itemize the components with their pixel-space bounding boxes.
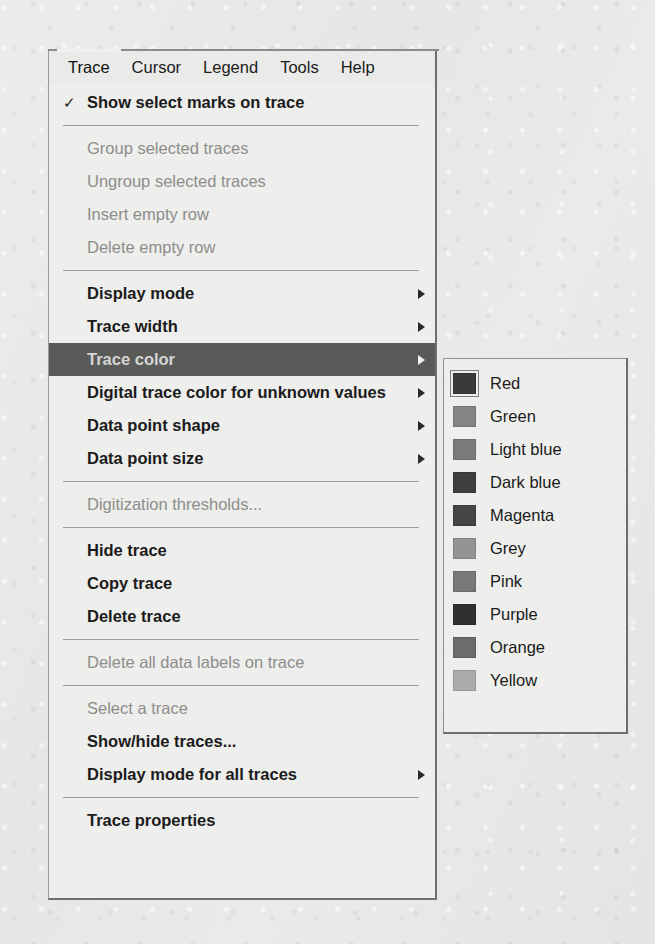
menubar-item-legend[interactable]: Legend — [192, 51, 269, 84]
color-option-grey[interactable]: Grey — [444, 532, 626, 565]
menu-separator — [63, 685, 419, 686]
color-option-label: Light blue — [490, 440, 562, 459]
color-swatch-icon — [453, 637, 476, 658]
menu-item-show-select-marks-on-trace[interactable]: ✓Show select marks on trace — [49, 86, 435, 119]
menu-item-label: Hide trace — [87, 541, 425, 560]
menu-item-delete-trace[interactable]: Delete trace — [49, 600, 435, 633]
color-option-green[interactable]: Green — [444, 400, 626, 433]
menu-item-data-point-shape[interactable]: Data point shape — [49, 409, 435, 442]
color-option-label: Yellow — [490, 671, 537, 690]
menu-item-trace-width[interactable]: Trace width — [49, 310, 435, 343]
menu-item-copy-trace[interactable]: Copy trace — [49, 567, 435, 600]
menu-item-label: Trace color — [87, 350, 410, 369]
color-option-label: Grey — [490, 539, 526, 558]
menu-item-label: Display mode for all traces — [87, 765, 410, 784]
menu-item-delete-empty-row: Delete empty row — [49, 231, 435, 264]
menu-separator — [63, 481, 419, 482]
trace-menu-window: TraceCursorLegendToolsHelp ✓Show select … — [48, 51, 437, 900]
submenu-arrow-icon — [418, 322, 425, 332]
menu-item-select-a-trace: Select a trace — [49, 692, 435, 725]
color-option-light-blue[interactable]: Light blue — [444, 433, 626, 466]
color-option-label: Red — [490, 374, 520, 393]
color-option-dark-blue[interactable]: Dark blue — [444, 466, 626, 499]
menu-item-label: Delete all data labels on trace — [87, 653, 425, 672]
menu-item-label: Insert empty row — [87, 205, 425, 224]
color-option-label: Magenta — [490, 506, 554, 525]
menu-separator — [63, 270, 419, 271]
submenu-arrow-icon — [418, 770, 425, 780]
menu-item-label: Trace properties — [87, 811, 425, 830]
menu-item-digital-trace-color-for-unknown-values[interactable]: Digital trace color for unknown values — [49, 376, 435, 409]
submenu-arrow-icon — [418, 388, 425, 398]
color-option-label: Green — [490, 407, 536, 426]
menu-item-label: Trace width — [87, 317, 410, 336]
color-swatch-icon — [453, 670, 476, 691]
color-swatch-icon — [453, 472, 476, 493]
menubar: TraceCursorLegendToolsHelp — [49, 51, 435, 84]
color-option-orange[interactable]: Orange — [444, 631, 626, 664]
color-swatch-icon — [453, 439, 476, 460]
menu-item-insert-empty-row: Insert empty row — [49, 198, 435, 231]
menu-separator — [63, 639, 419, 640]
trace-color-submenu: RedGreenLight blueDark blueMagentaGreyPi… — [443, 358, 628, 734]
color-option-red[interactable]: Red — [444, 367, 626, 400]
color-option-pink[interactable]: Pink — [444, 565, 626, 598]
trace-menu-list: ✓Show select marks on traceGroup selecte… — [49, 84, 435, 837]
menu-item-display-mode[interactable]: Display mode — [49, 277, 435, 310]
checkmark-icon: ✓ — [63, 95, 87, 110]
menu-item-label: Display mode — [87, 284, 410, 303]
menu-item-label: Delete trace — [87, 607, 425, 626]
color-option-label: Dark blue — [490, 473, 561, 492]
color-option-yellow[interactable]: Yellow — [444, 664, 626, 697]
color-option-magenta[interactable]: Magenta — [444, 499, 626, 532]
menu-item-label: Digital trace color for unknown values — [87, 383, 410, 402]
submenu-arrow-icon — [418, 421, 425, 431]
color-swatch-icon — [453, 604, 476, 625]
menu-item-label: Delete empty row — [87, 238, 425, 257]
menu-item-ungroup-selected-traces: Ungroup selected traces — [49, 165, 435, 198]
menu-item-label: Digitization thresholds... — [87, 495, 425, 514]
menubar-item-tools[interactable]: Tools — [269, 51, 330, 84]
menu-item-group-selected-traces: Group selected traces — [49, 132, 435, 165]
color-option-label: Pink — [490, 572, 522, 591]
menu-item-display-mode-for-all-traces[interactable]: Display mode for all traces — [49, 758, 435, 791]
menubar-item-cursor[interactable]: Cursor — [121, 51, 193, 84]
menu-item-label: Select a trace — [87, 699, 425, 718]
menubar-item-trace[interactable]: Trace — [57, 51, 121, 84]
menu-item-label: Show select marks on trace — [87, 93, 425, 112]
menu-separator — [63, 125, 419, 126]
color-swatch-icon — [453, 505, 476, 526]
menu-item-label: Data point shape — [87, 416, 410, 435]
menu-item-label: Group selected traces — [87, 139, 425, 158]
menu-item-label: Data point size — [87, 449, 410, 468]
color-swatch-icon — [453, 373, 476, 394]
menu-item-show-hide-traces[interactable]: Show/hide traces... — [49, 725, 435, 758]
menu-item-data-point-size[interactable]: Data point size — [49, 442, 435, 475]
submenu-arrow-icon — [418, 355, 425, 365]
menu-item-label: Ungroup selected traces — [87, 172, 425, 191]
menu-item-label: Show/hide traces... — [87, 732, 425, 751]
color-option-label: Purple — [490, 605, 538, 624]
menu-item-trace-color[interactable]: Trace color — [49, 343, 435, 376]
color-swatch-icon — [453, 571, 476, 592]
color-option-label: Orange — [490, 638, 545, 657]
menu-item-digitization-thresholds: Digitization thresholds... — [49, 488, 435, 521]
submenu-arrow-icon — [418, 289, 425, 299]
menu-item-trace-properties[interactable]: Trace properties — [49, 804, 435, 837]
menu-item-label: Copy trace — [87, 574, 425, 593]
menu-separator — [63, 797, 419, 798]
menu-item-hide-trace[interactable]: Hide trace — [49, 534, 435, 567]
color-swatch-icon — [453, 406, 476, 427]
color-option-purple[interactable]: Purple — [444, 598, 626, 631]
menubar-item-help[interactable]: Help — [330, 51, 386, 84]
submenu-arrow-icon — [418, 454, 425, 464]
menu-separator — [63, 527, 419, 528]
menu-item-delete-all-data-labels-on-trace: Delete all data labels on trace — [49, 646, 435, 679]
color-swatch-icon — [453, 538, 476, 559]
